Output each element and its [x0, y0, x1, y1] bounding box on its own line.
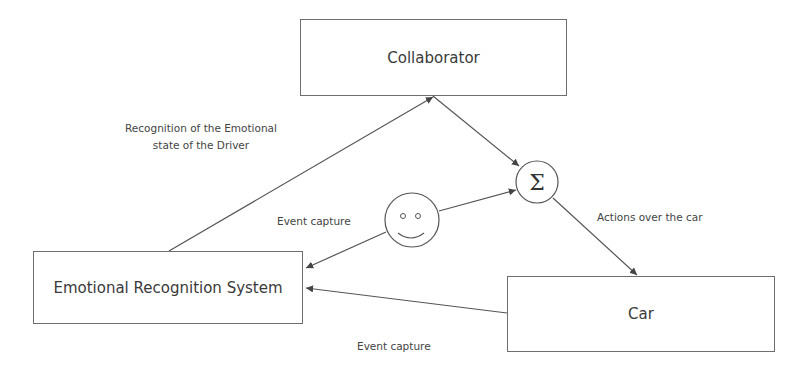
sigma-summation-icon: Σ — [516, 161, 558, 203]
recognition-edge-label: Recognition of the Emotional state of th… — [116, 120, 286, 154]
event-capture-bottom-label: Event capture — [357, 338, 431, 355]
actions-over-car-label: Actions over the car — [597, 209, 703, 226]
car-label: Car — [628, 305, 654, 323]
ers-label: Emotional Recognition System — [53, 279, 282, 297]
smiley-face-icon — [385, 193, 439, 247]
emotional-recognition-system-box: Emotional Recognition System — [33, 251, 303, 324]
recognition-label-line1: Recognition of the Emotional — [116, 120, 286, 137]
recognition-label-line2: state of the Driver — [116, 137, 286, 154]
collaborator-box: Collaborator — [300, 19, 567, 96]
diagram-canvas: Σ Collaborator Emotional Recognition Sys… — [0, 0, 803, 379]
arrow-car-to-ers — [306, 288, 507, 313]
arrow-driver-to-sum — [439, 190, 516, 211]
car-box: Car — [507, 276, 775, 352]
event-capture-top-label: Event capture — [277, 213, 351, 230]
arrow-collaborator-to-sum — [433, 96, 519, 166]
arrow-driver-to-ers — [306, 232, 386, 268]
collaborator-label: Collaborator — [387, 49, 479, 67]
